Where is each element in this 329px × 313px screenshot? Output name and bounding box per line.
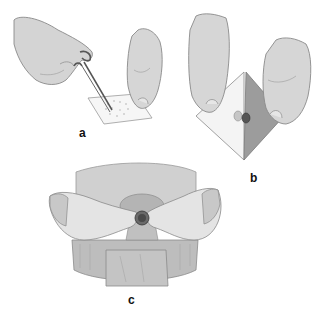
panel-label-a: a — [79, 127, 86, 139]
ostomy-illustration-figure: a b c — [0, 0, 329, 313]
panel-b-drawing — [189, 14, 311, 160]
panel-label-b: b — [250, 172, 257, 184]
panel-a-drawing — [14, 17, 162, 124]
illustration-svg — [0, 0, 329, 313]
panel-label-c: c — [128, 294, 135, 306]
panel-c-drawing — [49, 163, 221, 286]
